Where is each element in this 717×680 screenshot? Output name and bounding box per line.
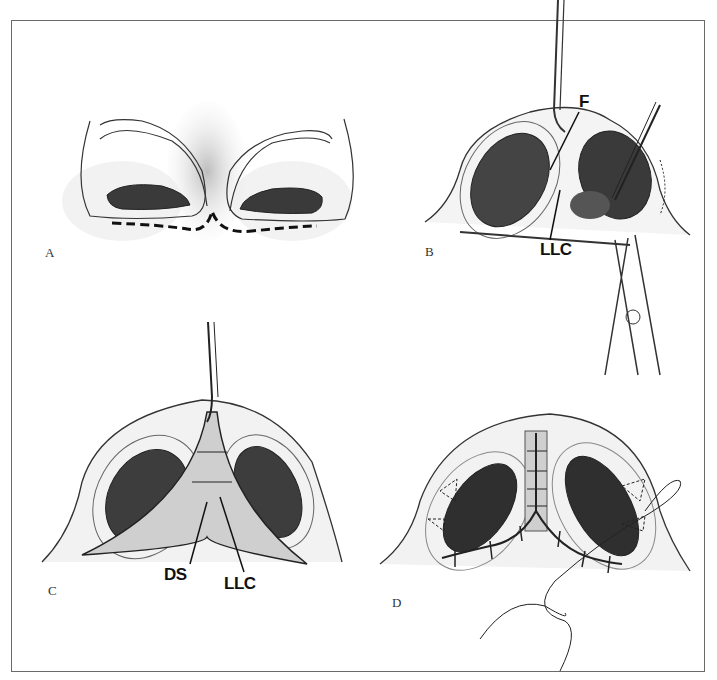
label-llc-c: LLC <box>224 574 256 594</box>
illustration-nose-basal-view <box>12 21 357 321</box>
panel-letter-b: B <box>425 244 434 260</box>
illustration-columella-flap <box>12 322 357 662</box>
illustration-suture-closure <box>360 381 705 671</box>
label-llc-b: LLC <box>540 240 572 260</box>
panel-c: C DS LLC <box>12 322 357 662</box>
panel-letter-a: A <box>45 245 54 261</box>
label-ds: DS <box>164 565 187 585</box>
label-f: F <box>579 92 589 112</box>
panel-b: B F LLC <box>360 0 710 380</box>
illustration-open-approach <box>360 0 710 380</box>
panel-letter-d: D <box>392 595 401 611</box>
panel-a: A <box>12 21 357 321</box>
panel-letter-c: C <box>48 583 57 599</box>
panel-d: D <box>360 381 705 671</box>
